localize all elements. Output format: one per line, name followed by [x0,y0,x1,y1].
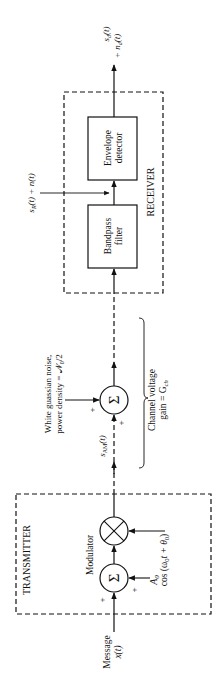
svg-text:Channel voltage: Channel voltage [147,369,157,431]
svg-text:sAM(t): sAM(t) [97,435,108,457]
modulator-label: Modulator [85,534,95,575]
envelope-detector-label: Envelope detector [103,130,124,166]
svg-text:gain = Gch: gain = Gch [158,380,169,419]
sigma-icon: Σ [106,574,122,583]
receiver-title: RECEIVER [145,167,156,216]
svg-text:filter: filter [114,226,124,245]
plus-sign-signal: + [116,420,126,425]
svg-text:Envelope: Envelope [103,130,113,166]
message-label: Message x(t) [102,635,124,668]
svg-text:White guassian noise,: White guassian noise, [43,355,53,434]
plus-sign-dc: + [129,587,139,592]
svg-text:detector: detector [114,132,124,163]
carrier-label: cos (ω0t + θ0) [159,534,170,587]
output-signal-label: sd(t) + nd(t) [101,26,123,58]
svg-text:Bandpass: Bandpass [103,217,113,254]
transmitter-title: TRANSMITTER [21,525,32,595]
noise-label: White guassian noise, power density = 𝒩0… [43,354,65,433]
svg-text:+ nd(t): + nd(t) [112,34,123,58]
svg-text:Message: Message [102,635,112,668]
svg-text:power density = 𝒩0/2: power density = 𝒩0/2 [54,354,65,433]
am-system-block-diagram: TRANSMITTER Message x(t) + Σ + A0 Modula… [0,0,222,691]
probe-signal-label: sR(t) + n(t) [26,173,37,212]
plus-sign-message: + [97,597,107,602]
multiplier-icon [100,517,128,545]
svg-text:sd(t): sd(t) [101,26,112,41]
channel-gain-label: Channel voltage gain = Gch [147,369,169,431]
svg-text:x(t): x(t) [113,645,124,659]
svg-text:sR(t) + n(t): sR(t) + n(t) [26,173,37,212]
sam-signal-label: sAM(t) [97,435,108,457]
plus-sign-noise: + [87,407,97,412]
svg-text:cos (ω0t + θ0): cos (ω0t + θ0) [159,534,170,587]
sigma-icon: Σ [106,396,122,405]
